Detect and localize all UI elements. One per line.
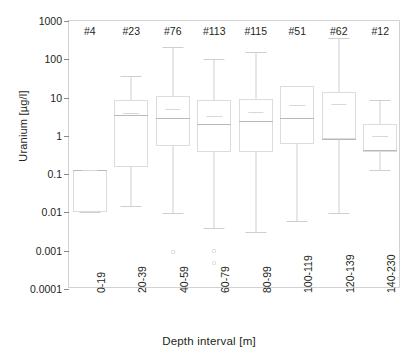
upper-whisker [214, 59, 215, 100]
lower-whisker [172, 146, 173, 213]
lower-whisker-cap [245, 232, 266, 233]
upper-whisker-cap [245, 52, 266, 53]
y-axis-tick-label: 0.0001 [30, 283, 69, 295]
box-iqr [322, 92, 356, 139]
lower-whisker [338, 139, 339, 213]
lower-whisker-cap [121, 206, 142, 207]
x-axis-tick-label: 140-230 [385, 254, 397, 293]
group-count-label: #4 [84, 25, 96, 37]
lower-whisker [297, 144, 298, 221]
y-axis-tick-label: 10 [50, 92, 69, 104]
lower-whisker-cap [79, 212, 100, 213]
mean-marker [124, 113, 139, 114]
group-count-label: #23 [122, 25, 140, 37]
median-line [239, 121, 273, 122]
median-line [363, 150, 397, 151]
box-iqr [114, 100, 148, 167]
outlier-point [171, 250, 175, 254]
median-line [197, 124, 231, 125]
mean-marker [248, 112, 263, 113]
box-iqr [239, 99, 273, 152]
mean-marker [82, 170, 97, 171]
lower-whisker-cap [370, 170, 391, 171]
box-iqr [156, 96, 190, 146]
x-axis-tick-label: 0-19 [95, 272, 107, 293]
box-plot-group [277, 21, 319, 287]
mean-marker [290, 105, 305, 106]
lower-whisker [214, 152, 215, 228]
median-line [156, 118, 190, 119]
upper-whisker [338, 38, 339, 92]
group-count-label: #51 [288, 25, 306, 37]
box-plot-group [360, 21, 402, 287]
box-plot-group [194, 21, 236, 287]
outlier-point [212, 249, 216, 253]
median-line [322, 139, 356, 140]
upper-whisker [380, 100, 381, 123]
y-axis-tick-label: 1 [56, 130, 69, 142]
mean-marker [373, 136, 388, 137]
box-iqr [197, 100, 231, 152]
x-axis-title: Depth interval [m] [0, 335, 418, 347]
box-plot-group [318, 21, 360, 287]
upper-whisker [131, 76, 132, 100]
group-count-label: #12 [371, 25, 389, 37]
lower-whisker-cap [287, 221, 308, 222]
x-axis-tick-label: 120-139 [344, 254, 356, 293]
lower-whisker-cap [162, 213, 183, 214]
upper-whisker-cap [121, 76, 142, 77]
lower-whisker-cap [328, 213, 349, 214]
box-plot-figure: Uranium [µg/l] Depth interval [m] 100010… [0, 0, 418, 360]
x-axis-tick-label: 60-79 [219, 266, 231, 293]
upper-whisker-cap [370, 100, 391, 101]
group-count-label: #113 [203, 25, 226, 37]
x-axis-tick-label: 80-99 [261, 266, 273, 293]
mean-marker [165, 109, 180, 110]
median-line [280, 118, 314, 119]
box-iqr [280, 86, 314, 144]
mean-marker [207, 116, 222, 117]
upper-whisker [255, 52, 256, 99]
y-axis-tick-label: 0.1 [47, 168, 69, 180]
mean-marker [331, 104, 346, 105]
upper-whisker-cap [204, 59, 225, 60]
box-plot-group [152, 21, 194, 287]
group-count-label: #76 [164, 25, 182, 37]
y-axis-tick-label: 0.001 [36, 245, 69, 257]
box-iqr [363, 124, 397, 152]
lower-whisker-cap [204, 228, 225, 229]
y-axis-title: Uranium [µg/l] [17, 51, 29, 201]
upper-whisker [172, 47, 173, 96]
group-count-label: #62 [330, 25, 348, 37]
box-iqr [73, 170, 107, 213]
group-count-label: #115 [244, 25, 267, 37]
y-axis-tick-label: 1000 [39, 15, 69, 27]
y-axis-tick-label: 0.01 [42, 206, 69, 218]
lower-whisker [380, 152, 381, 170]
box-plot-group [69, 21, 111, 287]
median-line [114, 115, 148, 116]
plot-area: 10001001010.10.010.0010.0001#40-19#2320-… [68, 20, 400, 288]
lower-whisker [255, 152, 256, 233]
outlier-point [212, 261, 216, 265]
y-axis-tick-label: 100 [44, 53, 69, 65]
x-axis-tick-label: 100-119 [302, 255, 314, 293]
upper-whisker-cap [328, 38, 349, 39]
box-plot-group [235, 21, 277, 287]
x-axis-tick-label: 40-59 [178, 266, 190, 293]
lower-whisker [131, 167, 132, 205]
upper-whisker-cap [162, 47, 183, 48]
box-plot-group [111, 21, 153, 287]
x-axis-tick-label: 20-39 [136, 266, 148, 293]
